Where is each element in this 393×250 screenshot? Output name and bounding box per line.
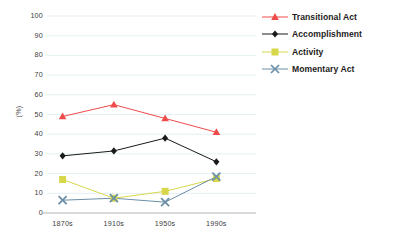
legend-label: Activity xyxy=(292,47,323,57)
legend-label: Momentary Act xyxy=(292,64,354,74)
legend-label: Transitional Act xyxy=(292,12,357,22)
legend-label: Accomplishment xyxy=(292,29,362,39)
legend-item[interactable]: Transitional Act xyxy=(262,8,390,26)
legend-item[interactable]: Momentary Act xyxy=(262,61,390,79)
x-tick-label: 1950s xyxy=(155,219,176,228)
gridlines xyxy=(47,16,256,193)
x-tick-label: 1910s xyxy=(104,219,125,228)
legend-item[interactable]: Activity xyxy=(262,43,390,61)
x-axis: 1870s1910s1950s1990s xyxy=(47,219,252,233)
triangle-marker-icon xyxy=(262,10,288,24)
legend-item[interactable]: Accomplishment xyxy=(262,26,390,44)
x-tick-label: 1870s xyxy=(52,219,73,228)
chart-legend: Transitional ActAccomplishmentActivityMo… xyxy=(262,8,390,78)
x-tick-label: 1990s xyxy=(206,219,227,228)
diamond-marker-icon xyxy=(262,27,288,41)
x-marker-icon xyxy=(262,62,288,76)
square-marker-icon xyxy=(262,45,288,59)
line-chart: 0102030405060708090100 (%) 1870s1910s195… xyxy=(0,0,393,250)
